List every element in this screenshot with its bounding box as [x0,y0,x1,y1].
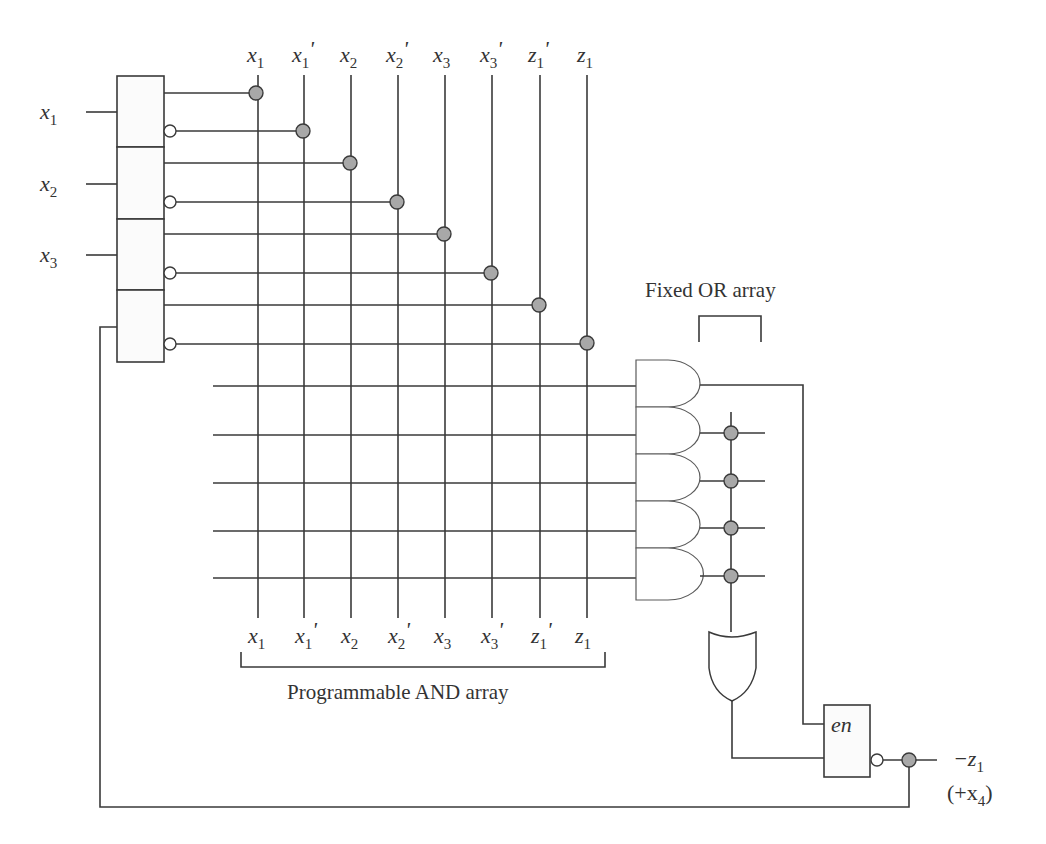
input-label-x3: x3 [39,242,57,271]
and-gate-icon [636,548,703,600]
input-buffer-blocks [117,76,164,362]
svg-text:z1': z1' [530,617,552,652]
output-label: −z1 [953,746,984,775]
svg-text:x2': x2' [385,36,408,71]
and-gates [636,360,703,600]
and-gate-icon [636,501,700,548]
svg-text:x1': x1' [291,36,314,71]
inverter-bubbles [164,125,176,350]
and-gate-icon [636,407,700,454]
inverter-bubble-icon [164,196,176,208]
svg-text:x2': x2' [387,617,410,652]
buffer-z1-feedback [117,290,164,362]
or-array-wires [700,412,765,632]
or-array-label: Fixed OR array [645,278,776,302]
svg-text:x1: x1 [247,623,265,652]
output-inverter-bubble-icon [871,754,883,766]
input-label-x1: x1 [39,99,57,128]
inverter-bubble-icon [164,338,176,350]
buffer-x2 [117,147,164,219]
and-array-columns [258,75,587,618]
input-labels: x1 x2 x3 [39,99,57,271]
feedback-wire [100,327,909,807]
column-labels-top: x1 x1' x2 x2' x3 x3' z1' z1 [246,36,593,71]
buffer-x3 [117,219,164,290]
svg-text:x3: x3 [433,623,451,652]
and-gate-icon [636,360,700,407]
inverter-bubble-icon [164,125,176,137]
input-wires [86,112,118,255]
and-array-label: Programmable AND array [287,680,509,704]
svg-text:x3': x3' [479,36,502,71]
or-gate-icon [709,632,756,701]
svg-text:x3: x3 [432,42,450,71]
enable-label: en [831,712,852,737]
svg-text:x1: x1 [246,42,264,71]
svg-text:x1': x1' [294,617,317,652]
buffer-x1 [117,76,164,147]
svg-text:z1': z1' [527,36,549,71]
inverter-bubble-icon [164,267,176,279]
and-array-bracket [241,652,605,667]
svg-text:x2: x2 [339,42,357,71]
output-connection-dot [902,753,916,767]
svg-text:x3': x3' [480,617,503,652]
svg-text:z1: z1 [576,42,593,71]
svg-text:z1: z1 [574,623,591,652]
pal-diagram: x1 x2 x3 x1 x1' x2 x2' x3 x3' z1' z1 [0,0,1046,844]
column-connection-dots [249,86,594,350]
buffer-output-wires [164,93,587,344]
product-term-lines [213,386,637,578]
or-array-bracket [699,316,761,342]
column-labels-bottom: x1 x1' x2 x2' x3 x3' z1' z1 [247,617,591,652]
or-output-wire [732,701,824,758]
svg-text:x2: x2 [340,623,358,652]
and-gate-icon [636,454,700,501]
input-label-x2: x2 [39,171,57,200]
output-alt-label: (+x4) [947,780,993,809]
